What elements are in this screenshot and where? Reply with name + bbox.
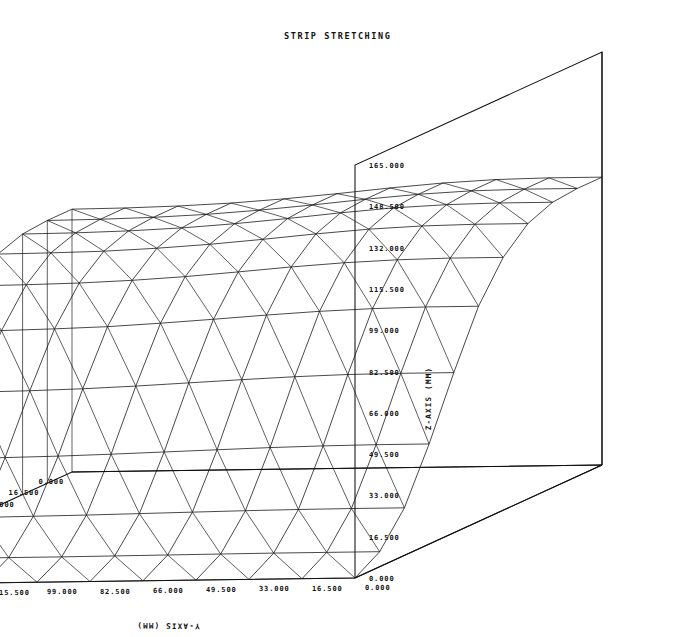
svg-text:49.500: 49.500 [369, 451, 400, 459]
svg-text:82.500: 82.500 [369, 369, 400, 377]
svg-text:33.000: 33.000 [259, 585, 290, 593]
svg-text:66.000: 66.000 [153, 587, 184, 595]
page-title: STRIP STRETCHING [284, 31, 391, 41]
svg-text:99.000: 99.000 [369, 327, 400, 335]
svg-text:66.000: 66.000 [369, 410, 400, 418]
z-axis-label: Z-AXIS (MM) [424, 367, 433, 431]
svg-text:132.000: 132.000 [369, 245, 405, 253]
svg-text:33.000: 33.000 [0, 501, 15, 509]
surface-plot-canvas: STRIP STRETCHING 0.00016.50033.00049.500… [0, 0, 688, 637]
svg-text:0.000: 0.000 [369, 575, 395, 583]
y-axis-label: Y-AXIS (MM) [136, 621, 200, 631]
svg-text:82.500: 82.500 [100, 588, 131, 596]
svg-text:49.500: 49.500 [206, 586, 237, 594]
svg-text:33.000: 33.000 [369, 492, 400, 500]
svg-text:16.500: 16.500 [369, 534, 400, 542]
svg-text:0.000: 0.000 [365, 584, 391, 592]
svg-text:115.500: 115.500 [369, 286, 405, 294]
svg-text:148.500: 148.500 [369, 203, 405, 211]
svg-text:115.500: 115.500 [0, 589, 30, 597]
svg-text:16.500: 16.500 [312, 585, 343, 593]
svg-text:16.500: 16.500 [9, 489, 40, 497]
plot-background [0, 0, 688, 637]
svg-text:99.000: 99.000 [47, 588, 78, 596]
svg-text:165.000: 165.000 [369, 162, 405, 170]
svg-text:0.000: 0.000 [38, 478, 64, 486]
